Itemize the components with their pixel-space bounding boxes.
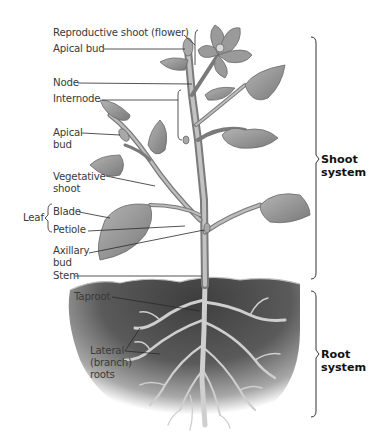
apical-bud-top <box>183 38 193 56</box>
leader-node <box>78 83 192 84</box>
bracket-flower <box>195 30 198 65</box>
label-apical-bud-side: Apical bud <box>53 127 83 151</box>
axillary-bud <box>204 223 210 233</box>
leader-blade <box>79 212 110 218</box>
system-brackets <box>311 37 319 417</box>
label-petiole: Petiole <box>53 224 86 236</box>
label-apical-bud-top: Apical bud <box>53 43 105 55</box>
stems <box>110 50 260 285</box>
root-system-bracket <box>311 291 319 417</box>
label-leaf: Leaf <box>23 212 44 224</box>
leader-apical-bud-side <box>82 133 120 135</box>
label-shoot-system: Shoot system <box>321 153 366 179</box>
label-axillary-bud: Axillary bud <box>53 245 89 269</box>
label-vegetative-shoot: Vegetative shoot <box>53 171 106 195</box>
bracket-internode <box>178 90 182 140</box>
label-internode: Internode <box>53 93 100 105</box>
label-root-system: Root system <box>321 348 366 374</box>
plant-diagram <box>0 0 379 443</box>
bracket-leaf <box>45 204 52 232</box>
label-stem: Stem <box>53 270 79 282</box>
label-reproductive-shoot: Reproductive shoot (flower) <box>53 27 189 39</box>
label-blade: Blade <box>53 206 81 218</box>
shoot-system-bracket <box>311 37 319 279</box>
leader-vegetative-shoot <box>106 176 155 186</box>
label-node: Node <box>53 77 79 89</box>
label-lateral-roots: Lateral (branch) roots <box>90 345 132 381</box>
label-taproot: Taproot <box>74 291 110 303</box>
